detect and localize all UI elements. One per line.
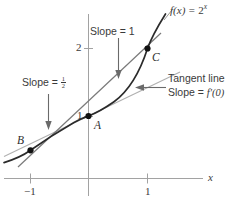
point-B-dot [27,147,33,153]
annotation-slope-one-prefix: Slope = [90,25,129,37]
annotation-slope-one-value: 1 [129,25,135,37]
function-label-equals: = [185,4,198,16]
x-tick-label-1: 1 [145,186,151,197]
point-label-A: A [94,120,101,132]
point-label-B: B [17,135,24,147]
x-tick-label-minus1: −1 [24,186,36,197]
annotation-tangent-line-2: Slope = f′(0) [168,87,224,99]
point-C-dot [144,45,150,51]
fraction-one-half: 12 [61,76,66,91]
function-label-exponent: x [204,2,207,11]
fraction-numerator: 1 [61,76,66,83]
annotation-tangent-line-1: Tangent line [168,73,225,84]
y-tick-label-1: 1 [77,110,83,121]
tangent-arrow-head [135,84,144,90]
annotation-tangent-value: f′(0) [207,87,224,98]
fraction-denominator: 2 [61,82,66,90]
annotation-slope-half-prefix: Slope = [22,76,61,88]
annotation-slope-half: Slope = 12 [22,76,66,91]
secant-line [18,33,161,167]
slope-half-arrow-head [45,121,51,130]
function-label: f(x) = 2x [170,3,207,16]
point-A-dot [85,113,91,119]
annotation-slope-one: Slope = 1 [90,26,135,37]
y-tick-label-2: 2 [76,42,82,53]
x-axis-label: x [208,172,213,183]
annotation-tangent-prefix: Slope = [168,86,207,98]
figure-canvas: f(x) = 2x Slope = 1 Slope = 12 Tangent l… [0,0,233,207]
point-label-C: C [152,52,160,64]
